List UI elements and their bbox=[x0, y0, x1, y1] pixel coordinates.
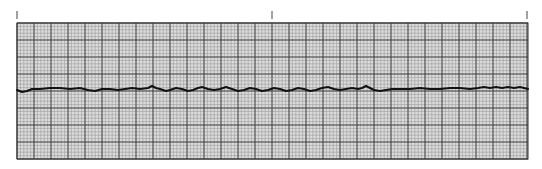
ecg-strip bbox=[0, 0, 542, 169]
time-marks bbox=[17, 11, 527, 19]
